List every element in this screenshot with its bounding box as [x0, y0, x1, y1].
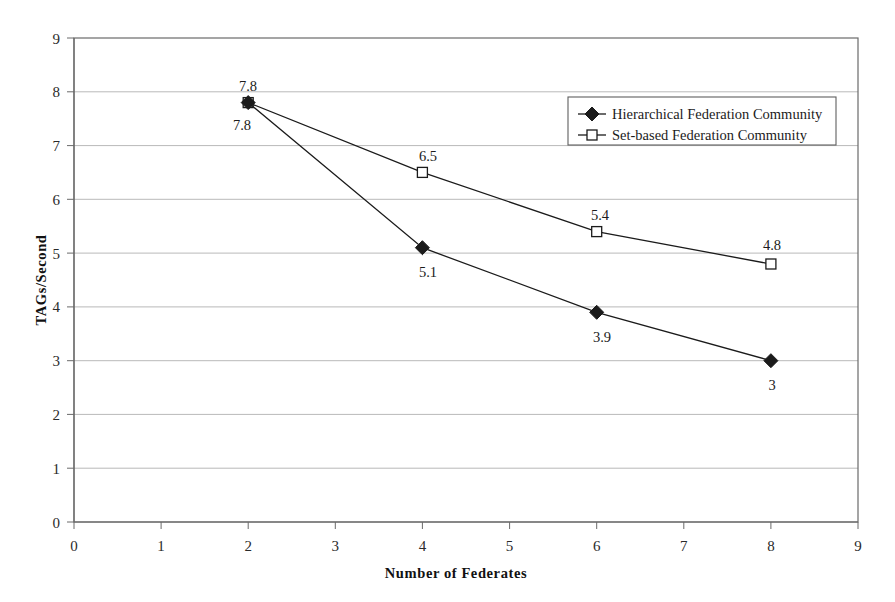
data-label: 3: [768, 377, 775, 393]
x-tick-label: 6: [593, 538, 601, 554]
legend-label: Hierarchical Federation Community: [612, 106, 823, 122]
y-tick-label: 7: [53, 138, 61, 154]
y-tick-label: 1: [53, 461, 61, 477]
x-tick-label: 5: [506, 538, 514, 554]
y-tick-label: 6: [53, 192, 61, 208]
x-axis-tick-labels: 0 1 2 3 4 5 6 7 8 9: [70, 538, 862, 554]
data-label: 6.5: [419, 148, 437, 164]
chart-container: 0 1 2 3 4 5 6 7 8 9 0 1 2 3 4 5 6 7 8 9 …: [0, 0, 895, 602]
y-tick-label: 8: [53, 84, 61, 100]
y-axis-tick-labels: 0 1 2 3 4 5 6 7 8 9: [53, 31, 61, 531]
data-label: 5.4: [591, 207, 610, 223]
y-axis-title: TAGs/Second: [33, 235, 49, 326]
x-tick-label: 9: [854, 538, 862, 554]
open-square-marker: [417, 167, 427, 177]
open-square-marker: [592, 227, 602, 237]
y-tick-label: 4: [53, 299, 61, 315]
open-square-marker: [766, 259, 776, 269]
data-label: 7.8: [233, 117, 251, 133]
y-axis-ticks: [67, 38, 74, 522]
open-square-icon: [587, 130, 597, 140]
legend-item-hierarchical[interactable]: Hierarchical Federation Community: [578, 106, 823, 122]
y-tick-label: 3: [53, 353, 61, 369]
x-tick-label: 1: [157, 538, 165, 554]
line-chart: 0 1 2 3 4 5 6 7 8 9 0 1 2 3 4 5 6 7 8 9 …: [0, 0, 895, 602]
data-label: 7.8: [239, 78, 257, 94]
y-tick-label: 9: [53, 31, 61, 47]
legend-item-set-based[interactable]: Set-based Federation Community: [578, 127, 808, 143]
data-label: 5.1: [419, 264, 437, 280]
x-tick-label: 2: [244, 538, 252, 554]
data-label: 3.9: [593, 329, 611, 345]
x-tick-label: 8: [767, 538, 775, 554]
x-tick-label: 0: [70, 538, 78, 554]
x-axis-ticks: [74, 522, 858, 529]
data-label: 4.8: [763, 237, 781, 253]
y-tick-label: 0: [53, 515, 61, 531]
legend-label: Set-based Federation Community: [612, 127, 808, 143]
x-axis-title: Number of Federates: [385, 565, 527, 581]
x-tick-label: 4: [419, 538, 427, 554]
x-tick-label: 3: [332, 538, 340, 554]
y-tick-label: 5: [53, 246, 61, 262]
legend: Hierarchical Federation Community Set-ba…: [568, 97, 836, 145]
y-tick-label: 2: [53, 407, 61, 423]
x-tick-label: 7: [680, 538, 688, 554]
